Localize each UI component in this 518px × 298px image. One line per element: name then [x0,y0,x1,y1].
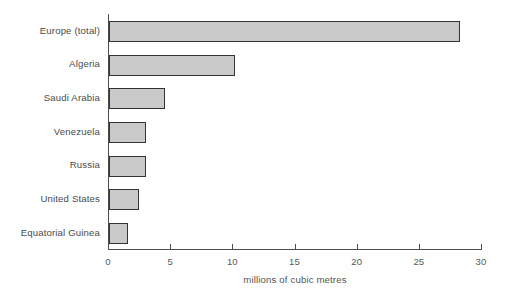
x-axis-title: millions of cubic metres [108,274,482,285]
bar-united-states [109,189,139,210]
category-label-algeria: Algeria [0,58,100,69]
x-tick-label-25: 25 [399,256,439,267]
category-label-equatorial-guinea: Equatorial Guinea [0,227,100,238]
x-tick-30 [481,244,482,249]
x-tick-label-0: 0 [88,256,128,267]
x-tick-25 [419,244,420,249]
category-label-united-states: United States [0,193,100,204]
x-tick-label-5: 5 [150,256,190,267]
bar-europe-total [109,21,460,42]
x-tick-20 [357,244,358,249]
bar-venezuela [109,122,146,143]
bar-algeria [109,55,235,76]
x-tick-15 [295,244,296,249]
category-label-europe-total: Europe (total) [0,25,100,36]
x-tick-5 [170,244,171,249]
bar-russia [109,156,146,177]
bar-saudi-arabia [109,88,165,109]
category-label-venezuela: Venezuela [0,126,100,137]
category-label-russia: Russia [0,159,100,170]
x-axis-line [108,249,482,250]
bar-chart: Europe (total) Algeria Saudi Arabia Vene… [0,0,518,298]
x-tick-10 [232,244,233,249]
x-tick-label-20: 20 [337,256,377,267]
category-label-saudi-arabia: Saudi Arabia [0,92,100,103]
bar-equatorial-guinea [109,223,128,244]
x-tick-label-30: 30 [461,256,501,267]
x-tick-0 [108,244,109,249]
x-tick-label-10: 10 [212,256,252,267]
x-tick-label-15: 15 [275,256,315,267]
y-axis-line [108,14,109,250]
